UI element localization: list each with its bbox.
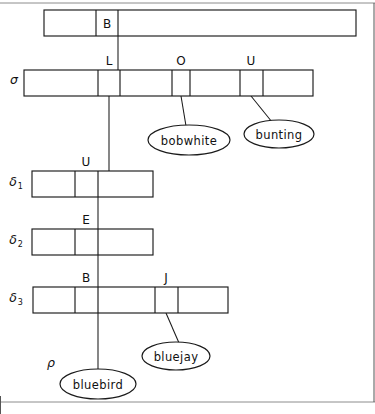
row-delta2: δ2 E — [9, 213, 153, 255]
edge-sigma-O-to-bobwhite — [181, 96, 186, 126]
row-sigma-label: σ — [10, 72, 19, 87]
node-bluebird: bluebird — [60, 369, 136, 399]
row-delta3-cell-label-B: B — [82, 271, 90, 285]
node-bluejay-label: bluejay — [154, 350, 199, 364]
row-top-outline — [44, 10, 356, 36]
row-top: B — [44, 10, 356, 36]
edge-sigma-U-to-bunting — [251, 96, 272, 122]
row-delta1-cell-label-U: U — [82, 155, 91, 169]
row-delta1-label: δ1 — [9, 174, 23, 191]
row-delta2-label: δ2 — [9, 232, 23, 249]
node-bluebird-label: bluebird — [73, 378, 123, 392]
node-bluejay: bluejay — [142, 342, 210, 370]
row-delta3-label: δ3 — [9, 290, 23, 307]
node-bobwhite-label: bobwhite — [161, 134, 217, 148]
edge-delta3-J-to-bluejay — [166, 313, 179, 343]
row-delta2-outline — [32, 229, 153, 255]
rho-label: ρ — [47, 355, 55, 370]
row-top-cell-label-B: B — [103, 17, 111, 31]
diagram-canvas: B σ L O U δ1 U δ2 — [0, 0, 375, 414]
row-sigma-cell-label-L: L — [106, 54, 113, 68]
row-delta3: δ3 B J — [9, 271, 228, 313]
row-sigma-outline — [24, 70, 313, 96]
node-bunting-label: bunting — [256, 128, 303, 142]
node-bobwhite: bobwhite — [148, 125, 230, 155]
row-delta3-outline — [33, 287, 228, 313]
row-sigma-cell-label-O: O — [176, 54, 185, 68]
row-delta3-cell-label-J: J — [163, 271, 168, 285]
trie-diagram-figure: B σ L O U δ1 U δ2 — [0, 0, 375, 414]
row-delta1: δ1 U — [9, 155, 153, 197]
node-bunting: bunting — [244, 120, 314, 148]
row-sigma: σ L O U — [10, 54, 313, 96]
row-sigma-cell-label-U: U — [247, 54, 256, 68]
row-delta2-cell-label-E: E — [82, 213, 90, 227]
row-delta1-outline — [32, 171, 153, 197]
